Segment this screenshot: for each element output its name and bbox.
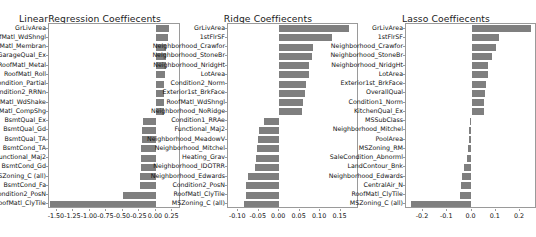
bar bbox=[461, 182, 471, 189]
bar bbox=[156, 99, 164, 106]
bar bbox=[462, 173, 471, 180]
y-tick-label: MSSubClass bbox=[365, 117, 403, 123]
bar bbox=[141, 155, 156, 162]
bar-series bbox=[406, 24, 535, 207]
bar bbox=[279, 44, 313, 51]
bar bbox=[156, 81, 164, 88]
y-tick-label: Neighborhood_NoRidge bbox=[151, 108, 225, 114]
bar bbox=[460, 192, 472, 199]
y-tick-label: BsmtCond_TA bbox=[3, 145, 46, 151]
x-tick-label: 0.1 bbox=[490, 212, 500, 220]
bar bbox=[469, 136, 472, 143]
x-axis-ticks: -1.50-1.25-1.00-0.75-0.50-0.250.000.25 bbox=[48, 209, 180, 223]
bar bbox=[279, 25, 349, 32]
y-tick-label: BsmtQual_Gd bbox=[3, 126, 46, 132]
bar bbox=[255, 164, 280, 171]
y-tick-label: RoofMatl_WdShngl bbox=[166, 98, 225, 104]
x-tick-mark bbox=[56, 209, 57, 211]
bar bbox=[279, 90, 305, 97]
y-tick-label: RoofMatl_Roll bbox=[4, 71, 46, 77]
x-tick-mark bbox=[495, 209, 496, 211]
y-tick-label: RoofMatl_WdShngl bbox=[0, 34, 46, 40]
x-tick-label: 0.15 bbox=[332, 212, 346, 220]
y-tick-label: SaleCondition_Partial bbox=[0, 80, 46, 86]
y-tick-label: PoolArea bbox=[375, 135, 403, 141]
bar bbox=[472, 71, 488, 78]
bar bbox=[259, 127, 279, 134]
x-tick-mark bbox=[122, 209, 123, 211]
y-tick-label: Neighborhood_StoneBr bbox=[330, 52, 403, 58]
bar bbox=[279, 108, 302, 115]
y-tick-label: Exterior1st_BrkFace bbox=[340, 80, 403, 86]
y-tick-label: Condition2_RRNn bbox=[0, 89, 46, 95]
y-tick-label: GrLivArea bbox=[372, 24, 403, 30]
x-tick-mark bbox=[171, 209, 172, 211]
x-tick-label: -0.50 bbox=[114, 212, 131, 220]
bar bbox=[142, 127, 156, 134]
bar bbox=[156, 25, 170, 32]
x-tick-label: -0.05 bbox=[249, 212, 266, 220]
x-axis-ticks: -0.2-0.10.00.10.2 bbox=[405, 209, 536, 223]
y-tick-label: Neighborhood_MeadowV bbox=[147, 135, 225, 141]
plot-area bbox=[405, 23, 536, 208]
y-tick-label: 1stFlrSF bbox=[378, 34, 403, 40]
bar bbox=[470, 118, 472, 125]
bar bbox=[256, 155, 279, 162]
y-axis-labels: GrLivAreaRoofMatl_WdShnglRoofMatl_Membra… bbox=[0, 23, 46, 208]
y-tick-label: Neighborhood_StoneBr bbox=[152, 52, 225, 58]
y-tick-label: BsmtCond_Fa bbox=[4, 182, 47, 188]
y-tick-label: Neighborhood_Edwards bbox=[329, 172, 403, 178]
x-tick-label: 0.05 bbox=[292, 212, 306, 220]
bar bbox=[257, 145, 280, 152]
x-tick-label: -0.75 bbox=[97, 212, 114, 220]
x-tick-label: 0.0 bbox=[465, 212, 475, 220]
x-tick-label: 0.25 bbox=[164, 212, 178, 220]
x-tick-label: -0.1 bbox=[440, 212, 452, 220]
bar bbox=[279, 53, 312, 60]
bar bbox=[472, 44, 497, 51]
bar bbox=[50, 201, 156, 207]
x-tick-label: -1.25 bbox=[64, 212, 81, 220]
y-tick-label: Neighborhood_Mitchel bbox=[333, 126, 403, 132]
y-tick-label: Functional_Maj2 bbox=[174, 126, 225, 132]
y-tick-label: GrLivArea bbox=[15, 24, 46, 30]
chart-panel-ridge: Ridge Coeffiecents GrLivArea1stFlrSFNeig… bbox=[178, 0, 358, 237]
bar bbox=[156, 34, 168, 41]
x-tick-mark bbox=[237, 209, 238, 211]
y-tick-label: Functional_Maj2 bbox=[0, 154, 46, 160]
y-tick-label: RoofMatl_Membran bbox=[0, 43, 46, 49]
x-tick-label: -0.2 bbox=[416, 212, 428, 220]
y-tick-label: Neighborhood_Crawfor bbox=[153, 43, 225, 49]
figure-canvas: LinearRegression Coeffiecents GrLivAreaR… bbox=[0, 0, 536, 237]
bar bbox=[411, 201, 472, 207]
x-tick-mark bbox=[471, 209, 472, 211]
x-tick-mark bbox=[446, 209, 447, 211]
y-tick-label: Neighborhood_Mitchel bbox=[155, 145, 225, 151]
y-tick-label: OverallQual bbox=[366, 89, 403, 95]
bar bbox=[472, 81, 487, 88]
x-tick-label: -0.10 bbox=[229, 212, 246, 220]
x-tick-mark bbox=[72, 209, 73, 211]
bar bbox=[279, 62, 309, 69]
bar bbox=[279, 81, 306, 88]
y-tick-label: GrLivArea bbox=[194, 24, 225, 30]
x-tick-label: 0.10 bbox=[312, 212, 326, 220]
bar bbox=[244, 201, 279, 207]
y-tick-label: RoofMatl_ClyTile bbox=[351, 191, 403, 197]
bar bbox=[472, 25, 532, 32]
x-tick-mark bbox=[519, 209, 520, 211]
y-tick-label: Condition2_PosN bbox=[0, 191, 46, 197]
x-tick-mark bbox=[422, 209, 423, 211]
bar bbox=[472, 90, 485, 97]
bar bbox=[141, 145, 156, 152]
y-tick-label: RoofMatl_Metal bbox=[0, 61, 46, 67]
bar bbox=[472, 34, 499, 41]
y-tick-label: Condition2_PosN bbox=[172, 182, 225, 188]
x-tick-label: -1.50 bbox=[48, 212, 65, 220]
y-tick-label: SaleCondition_Abnorml bbox=[330, 154, 403, 160]
bar bbox=[472, 108, 484, 115]
x-tick-mark bbox=[258, 209, 259, 211]
bar bbox=[143, 118, 156, 125]
x-tick-mark bbox=[278, 209, 279, 211]
y-tick-label: Neighborhood_NridgHt bbox=[331, 61, 403, 67]
